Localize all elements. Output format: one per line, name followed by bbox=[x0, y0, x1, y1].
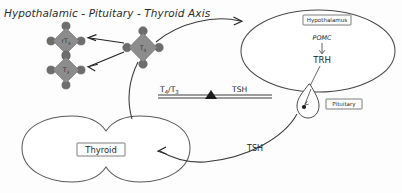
thyroid-to-t4-flow bbox=[129, 62, 138, 119]
feedback-balance: T4/T3 TSH bbox=[158, 85, 272, 99]
pituitary-label-text: Pituitary bbox=[332, 101, 356, 108]
molecule-t4: T4 bbox=[123, 27, 164, 69]
t4-to-hypothalamus-feedback bbox=[156, 17, 242, 42]
t4-to-rt3-arrow bbox=[88, 35, 124, 43]
diagram-canvas: Hypothalamic - Pituitary - Thyroid Axis … bbox=[0, 0, 402, 193]
hypothalamus-label-text: Hypothalamus bbox=[307, 17, 348, 24]
hypothalamus-label: Hypothalamus bbox=[303, 15, 351, 25]
pituitary-gland-dot bbox=[302, 105, 306, 109]
pituitary-label: Pituitary bbox=[326, 99, 362, 109]
page-title: Hypothalamic - Pituitary - Thyroid Axis bbox=[4, 7, 211, 19]
t4-to-t3-arrow bbox=[88, 52, 124, 71]
pomc-label: POMC bbox=[313, 34, 332, 42]
balance-right-label: TSH bbox=[231, 85, 247, 94]
thyroid-label: Thyroid bbox=[77, 143, 125, 156]
thyroid-label-text: Thyroid bbox=[84, 145, 116, 155]
hpt-axis-diagram: Hypothalamic - Pituitary - Thyroid Axis … bbox=[0, 0, 402, 193]
molecule-t3: T3 bbox=[47, 51, 85, 89]
tsh-flow-label: TSH bbox=[246, 144, 263, 153]
trh-label: TRH bbox=[312, 55, 331, 65]
balance-left-label: T4/T3 bbox=[159, 85, 179, 95]
